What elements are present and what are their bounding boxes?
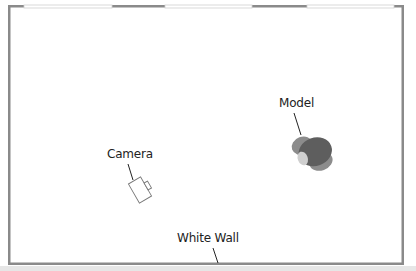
window-3 — [307, 5, 394, 8]
model-label: Model — [279, 96, 314, 110]
floor-plan-diagram: Model Camera White Wall — [0, 0, 416, 271]
window-2 — [165, 5, 252, 8]
camera-leader-line — [128, 164, 133, 180]
room-walls — [8, 5, 404, 265]
model-figure — [289, 128, 338, 178]
white-wall-leader-line — [213, 248, 218, 263]
white-wall-label: White Wall — [177, 231, 239, 245]
floor-strip — [0, 266, 416, 271]
window-1 — [24, 5, 112, 8]
model-leader-line — [294, 113, 301, 135]
camera-label: Camera — [107, 147, 153, 161]
